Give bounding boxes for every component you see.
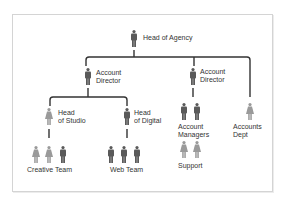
label-accounts-dept: Accounts Dept (233, 123, 262, 139)
label-support: Support (178, 162, 203, 170)
label-head-of-studio: Head of Studio (58, 109, 86, 125)
label-creative-team: Creative Team (27, 166, 72, 174)
label-head-of-digital: Head of Digital (134, 109, 161, 125)
label-account-director-left: Account Director (96, 69, 121, 85)
label-account-director-right: Account Director (200, 68, 225, 84)
male-person-icon (131, 30, 137, 47)
label-web-team: Web Team (110, 166, 143, 174)
label-account-managers: Account Managers (178, 123, 209, 139)
label-head-of-agency: Head of Agency (143, 34, 192, 42)
